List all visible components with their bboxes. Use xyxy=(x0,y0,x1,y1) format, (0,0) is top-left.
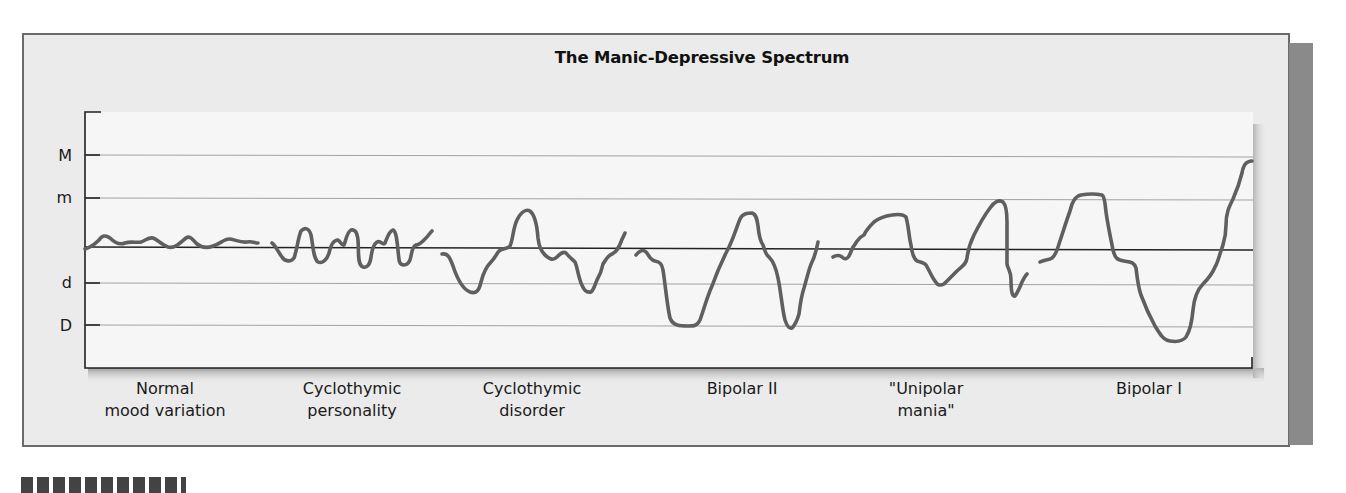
plot-shadow-bottom xyxy=(88,368,1264,384)
y-label-mild-depression: d xyxy=(52,273,72,292)
chart-title: The Manic-Depressive Spectrum xyxy=(0,48,1346,67)
figure-caption-fragment xyxy=(21,477,186,493)
plot-area xyxy=(85,112,1253,368)
y-label-mania: M xyxy=(52,146,72,165)
category-label-bipolar-ii: Bipolar II xyxy=(707,378,778,400)
category-label-cyclothymic-disorder: Cyclothymic disorder xyxy=(483,378,581,422)
category-label-cyclothymic-personality: Cyclothymic personality xyxy=(303,378,401,422)
y-label-hypomania: m xyxy=(52,188,72,207)
plot-shadow-right xyxy=(1253,124,1267,378)
category-label-normal: Normal mood variation xyxy=(104,378,225,422)
y-label-major-depression: D xyxy=(52,316,72,335)
category-label-unipolar-mania: "Unipolar mania" xyxy=(889,378,963,422)
category-label-bipolar-i: Bipolar I xyxy=(1116,378,1182,400)
